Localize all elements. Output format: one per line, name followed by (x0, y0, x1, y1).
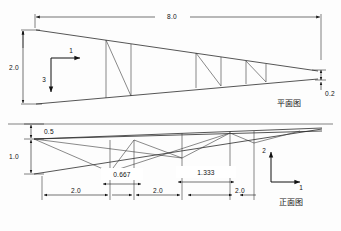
front-axis-indicator (271, 152, 300, 182)
front-offset-right-label: 1.333 (197, 169, 215, 176)
plan-root-depth-dimension (21, 30, 42, 104)
front-view-label: 正面图 (279, 198, 303, 207)
front-axis-2-label: 2 (262, 147, 266, 154)
plan-tip-depth-label: 0.2 (325, 90, 335, 97)
plan-overall-dimension (35, 14, 321, 60)
plan-web-members (106, 40, 266, 98)
plan-axis-indicator (51, 58, 80, 92)
drawing-canvas: 8.0 2.0 0.2 1 3 平面图 0.5 1.0 0.667 1.333 … (0, 0, 341, 231)
front-axis-1-label: 1 (299, 184, 303, 191)
front-bottom-depth-label: 1.0 (9, 153, 19, 160)
plan-view-group (21, 14, 326, 104)
plan-overall-length-label: 8.0 (167, 13, 177, 20)
front-panel-dim-2: 2.0 (153, 187, 163, 194)
plan-axis-3-label: 3 (42, 76, 46, 83)
front-panel-dim-1: 2.0 (71, 187, 81, 194)
plan-root-depth-label: 2.0 (9, 64, 19, 71)
front-bottom-depth-dimension (24, 140, 44, 174)
front-top-offset-dimension (24, 124, 44, 139)
front-top-offset-label: 0.5 (44, 128, 54, 135)
plan-chords (36, 30, 318, 104)
front-view-group (24, 124, 322, 200)
front-panel-dim-3: 2.0 (235, 187, 245, 194)
plan-axis-1-label: 1 (69, 47, 73, 54)
front-offset-left-label: 0.667 (113, 171, 131, 178)
plan-tip-depth-dimension (312, 70, 326, 90)
plan-view-label: 平面图 (277, 99, 301, 108)
